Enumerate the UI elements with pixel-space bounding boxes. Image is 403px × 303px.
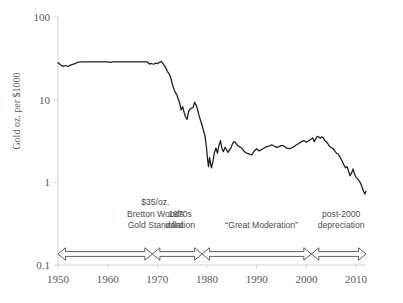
gold-price-chart: 1001010.1 1950196019701980199020002010 $… (0, 0, 403, 303)
x-tick-label: 2010 (345, 273, 368, 285)
x-tick-label: 1980 (196, 273, 219, 285)
x-tick-label: 1960 (97, 273, 120, 285)
y-tick-label: 100 (34, 11, 51, 23)
annotation-inflation-1970s: inflation (165, 220, 195, 230)
x-tick-label: 1970 (146, 273, 169, 285)
chart-background (0, 0, 403, 303)
x-tick-label: 1950 (47, 273, 70, 285)
y-axis-title-text: Gold oz. per $1000 (11, 72, 22, 149)
annotation-inflation-1970s: 1970s (168, 209, 191, 219)
x-tick-label: 1990 (246, 273, 269, 285)
y-tick-label: 10 (39, 94, 51, 106)
chart-canvas: 1001010.1 1950196019701980199020002010 $… (0, 0, 403, 303)
y-tick-label: 0.1 (36, 259, 50, 271)
annotation-post-2000: post-2000 (322, 209, 360, 219)
annotation-great-moderation: “Great Moderation” (225, 220, 298, 230)
annotation-bretton-woods: $35/oz. (141, 197, 169, 207)
y-tick-label: 1 (45, 176, 51, 188)
annotation-post-2000: depreciation (318, 220, 365, 230)
y-axis-title: Gold oz. per $1000 (11, 72, 22, 149)
x-tick-label: 2000 (295, 273, 318, 285)
